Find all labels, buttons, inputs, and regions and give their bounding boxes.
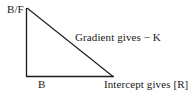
y-axis-label: B/F xyxy=(7,3,24,15)
gradient-annotation: Gradient gives − K xyxy=(75,31,161,43)
intercept-annotation: Intercept gives [R] xyxy=(104,78,188,90)
x-axis-label: B xyxy=(38,78,45,90)
